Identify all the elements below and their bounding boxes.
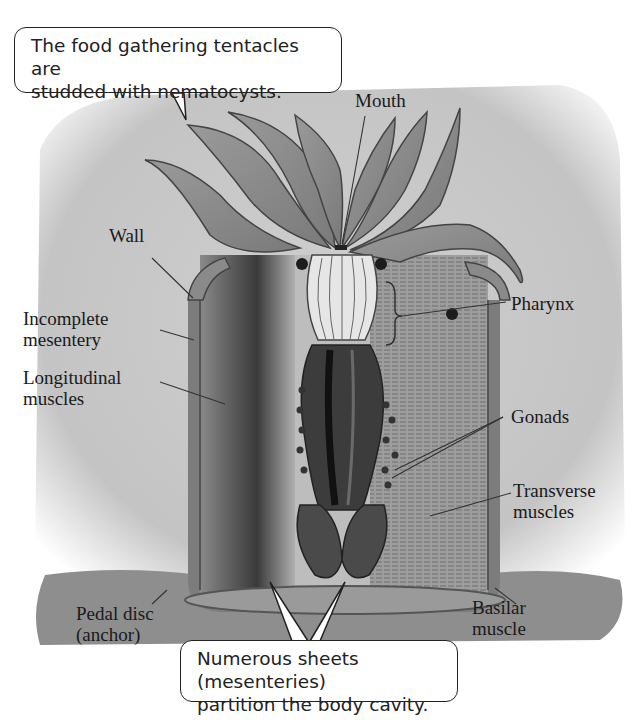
label-mouth: Mouth bbox=[355, 90, 406, 111]
label-longitudinal-muscles-line2: muscles bbox=[23, 388, 121, 409]
tentacles-callout: The food gathering tentacles are studded… bbox=[14, 27, 342, 93]
label-pharynx: Pharynx bbox=[511, 293, 574, 314]
label-incomplete-mesentery: Incomplete mesentery bbox=[23, 308, 108, 350]
label-transverse-muscles-line1: Transverse bbox=[513, 480, 596, 501]
label-longitudinal-muscles-line1: Longitudinal bbox=[23, 367, 121, 388]
mesenteries-callout: Numerous sheets (mesenteries) partition … bbox=[180, 640, 458, 702]
label-pedal-disc-line1: Pedal disc bbox=[76, 603, 154, 624]
mesenteries-callout-line1: Numerous sheets (mesenteries) bbox=[197, 647, 443, 693]
label-transverse-muscles: Transverse muscles bbox=[513, 480, 596, 522]
mesenteries-callout-line2: partition the body cavity. bbox=[197, 693, 443, 716]
label-longitudinal-muscles: Longitudinal muscles bbox=[23, 367, 121, 409]
label-incomplete-mesentery-line1: Incomplete bbox=[23, 308, 108, 329]
tentacles-callout-line2: studded with nematocysts. bbox=[31, 80, 327, 103]
label-gonads: Gonads bbox=[511, 406, 569, 427]
label-incomplete-mesentery-line2: mesentery bbox=[23, 329, 108, 350]
label-transverse-muscles-line2: muscles bbox=[513, 501, 596, 522]
tentacles-callout-line1: The food gathering tentacles are bbox=[31, 34, 327, 80]
label-basilar-muscle-line1: Basilar bbox=[472, 597, 526, 618]
label-wall: Wall bbox=[109, 225, 144, 246]
anemone-diagram: The food gathering tentacles are studded… bbox=[0, 0, 636, 725]
label-pedal-disc: Pedal disc (anchor) bbox=[76, 603, 154, 645]
label-basilar-muscle: Basilar muscle bbox=[472, 597, 526, 639]
label-basilar-muscle-line2: muscle bbox=[472, 618, 526, 639]
label-pedal-disc-line2: (anchor) bbox=[76, 624, 154, 645]
